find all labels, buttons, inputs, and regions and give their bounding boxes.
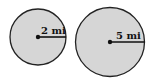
large-circle-group: 5 mi <box>76 8 145 77</box>
small-circle-group: 2 mi <box>10 9 66 65</box>
large-center-dot <box>108 40 112 44</box>
large-radius-label: 5 mi <box>116 30 141 41</box>
circles-diagram: 2 mi 5 mi <box>0 0 151 81</box>
small-center-dot <box>36 35 40 39</box>
small-radius-label: 2 mi <box>41 25 66 36</box>
